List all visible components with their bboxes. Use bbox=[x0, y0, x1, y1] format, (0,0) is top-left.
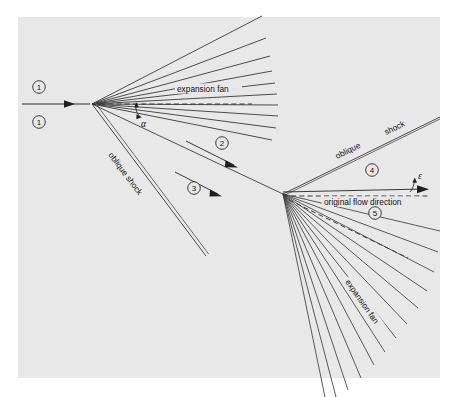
expansion-fan-upper-label-group: expansion fan bbox=[175, 84, 242, 94]
region-label-5-text: 5 bbox=[373, 209, 378, 218]
expansion-fan-upper-label: expansion fan bbox=[177, 84, 229, 94]
region-label-4-text: 4 bbox=[370, 166, 375, 175]
region-label-1-upper-text: 1 bbox=[37, 83, 42, 92]
region2-flow-arrow bbox=[186, 141, 238, 168]
region-label-1-upper: 1 bbox=[33, 81, 46, 94]
original-flow-direction-label-group: original flow direction bbox=[322, 197, 418, 208]
region-label-1-lower: 1 bbox=[33, 116, 46, 129]
figure-canvas: α bbox=[0, 0, 458, 397]
region-label-5: 5 bbox=[369, 207, 382, 220]
oblique-shock-left bbox=[92, 102, 209, 256]
inflow-arrow bbox=[22, 100, 90, 107]
expansion-fan-lower-label-group: expansion fan bbox=[342, 275, 388, 335]
region-label-4: 4 bbox=[366, 164, 379, 177]
original-flow-direction-label: original flow direction bbox=[324, 197, 402, 207]
flow-diagram: α bbox=[0, 0, 458, 397]
upper-expansion-fan bbox=[92, 16, 278, 140]
region-label-3: 3 bbox=[188, 182, 201, 195]
oblique-shock-right bbox=[283, 117, 440, 196]
region-label-3-text: 3 bbox=[192, 184, 197, 193]
epsilon-label: ε bbox=[418, 171, 422, 181]
oblique-shock-left-label: oblique shock bbox=[106, 150, 145, 197]
oblique-shock-left-label-group: oblique shock bbox=[105, 148, 151, 204]
region3-upper-boundary bbox=[92, 104, 283, 194]
region-label-2: 2 bbox=[216, 137, 229, 150]
region-label-2-text: 2 bbox=[220, 139, 225, 148]
region-label-1-lower-text: 1 bbox=[37, 118, 42, 127]
